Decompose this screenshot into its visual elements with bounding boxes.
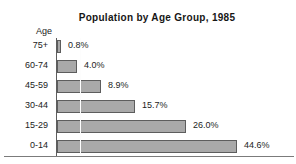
x-axis-baseline — [4, 156, 294, 157]
value-label: 8.9% — [108, 80, 129, 90]
bar-row: 15-29 26.0% — [57, 118, 296, 138]
category-label: 45-59 — [0, 80, 48, 90]
plot-area: 75+ 0.8% 60-74 4.0% 45-59 8.9% 30-44 15.… — [57, 38, 296, 156]
bar[interactable] — [57, 60, 77, 73]
bar[interactable] — [57, 100, 135, 113]
value-label: 44.6% — [244, 140, 270, 150]
bar-row: 45-59 8.9% — [57, 78, 296, 98]
chart-title: Population by Age Group, 1985 — [57, 12, 257, 23]
bar-row: 60-74 4.0% — [57, 58, 296, 78]
bar-chart-figure: Population by Age Group, 1985 Age 75+ 0.… — [0, 0, 296, 164]
y-axis-caption: Age — [0, 26, 52, 36]
bar-row: 0-14 44.6% — [57, 138, 296, 158]
value-label: 4.0% — [84, 60, 105, 70]
value-label: 0.8% — [68, 40, 89, 50]
bar-row: 30-44 15.7% — [57, 98, 296, 118]
category-label: 60-74 — [0, 60, 48, 70]
category-label: 0-14 — [0, 140, 48, 150]
category-label: 15-29 — [0, 120, 48, 130]
bar[interactable] — [57, 80, 101, 93]
vertical-gridline — [80, 38, 81, 155]
bar[interactable] — [57, 140, 237, 153]
bar[interactable] — [57, 120, 186, 133]
category-label: 30-44 — [0, 100, 48, 110]
value-label: 26.0% — [193, 120, 219, 130]
value-label: 15.7% — [142, 100, 168, 110]
bar-row: 75+ 0.8% — [57, 38, 296, 58]
bar[interactable] — [57, 40, 61, 53]
category-label: 75+ — [0, 40, 48, 50]
